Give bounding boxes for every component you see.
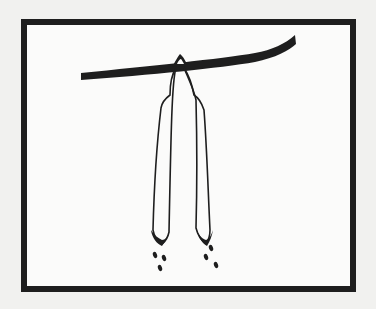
illustration: [0, 0, 376, 309]
